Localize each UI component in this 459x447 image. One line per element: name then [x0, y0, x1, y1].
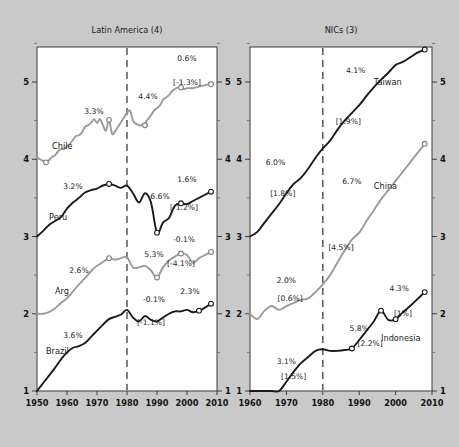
- xtick-label-latin-america-4: 1990: [146, 398, 169, 408]
- xtick-label-nics-2: 1980: [311, 398, 334, 408]
- annotation-china-2: 6.7%: [342, 177, 361, 186]
- xtick-label-nics-0: 1960: [239, 398, 262, 408]
- series-label-indonesia: Indonesia: [381, 333, 421, 343]
- annotation-indonesia-4: 4.3%: [390, 284, 409, 293]
- ytick-label-left-nics-4: 5: [236, 77, 242, 87]
- ytick-label-left-nics-3: 4: [236, 154, 242, 164]
- ytick-label-right-latin-america-3: 4: [225, 154, 231, 164]
- ytick-label-right-latin-america-2: 3: [225, 232, 231, 242]
- series-marker-peru-3: [209, 189, 214, 194]
- xtick-label-nics-3: 1990: [348, 398, 371, 408]
- annotation-taiwan-1: [1.9%]: [336, 117, 361, 126]
- series-marker-chile-4: [209, 82, 214, 87]
- ytick-label-left-latin-america-2: 3: [23, 232, 29, 242]
- annotation-china-3: [4.5%]: [328, 243, 353, 252]
- annotation-brazil-3: [-1.1%]: [137, 318, 165, 327]
- ytick-label-left-latin-america-4: 5: [23, 77, 29, 87]
- series-marker-chile-2: [143, 123, 148, 128]
- annotation-china-0: 6.0%: [266, 158, 285, 167]
- ytick-label-right-latin-america-1: 2: [225, 309, 231, 319]
- series-label-china: China: [374, 181, 397, 191]
- xtick-label-nics-4: 2000: [384, 398, 407, 408]
- series-label-taiwan: Taiwan: [373, 77, 402, 87]
- series-marker-peru-1: [155, 230, 160, 235]
- series-marker-chile-1: [107, 117, 112, 122]
- ytick-label-right-nics-4: 5: [440, 77, 446, 87]
- annotation-brazil-0: 3.6%: [63, 331, 82, 340]
- series-marker-brazil-0: [197, 308, 202, 313]
- panel-latin-america: Latin America (4)19501960197019801990200…: [23, 25, 231, 408]
- xtick-label-nics-5: 2010: [421, 398, 444, 408]
- ytick-label-right-nics-0: 1: [440, 386, 446, 396]
- annotation-indonesia-2: 5.8%: [350, 324, 369, 333]
- series-marker-indonesia-3: [422, 290, 427, 295]
- series-marker-arg-0: [107, 256, 112, 261]
- annotation-chile-2: 0.6%: [177, 54, 196, 63]
- ytick-label-left-nics-1: 2: [236, 309, 242, 319]
- series-marker-arg-3: [209, 250, 214, 255]
- ytick-label-right-nics-1: 2: [440, 309, 446, 319]
- annotation-arg-0: 2.6%: [69, 266, 88, 275]
- series-marker-indonesia-0: [350, 346, 355, 351]
- annotation-indonesia-5: [1%]: [394, 309, 412, 318]
- annotation-chile-3: [-1.3%]: [173, 78, 201, 87]
- ytick-label-right-latin-america-0: 1: [225, 386, 231, 396]
- chart-canvas: Latin America (4)19501960197019801990200…: [0, 0, 459, 447]
- series-marker-arg-2: [179, 251, 184, 256]
- xtick-label-latin-america-0: 1950: [26, 398, 49, 408]
- annotation-peru-2: 1.6%: [177, 175, 196, 184]
- xtick-label-latin-america-3: 1980: [116, 398, 139, 408]
- annotation-peru-0: 3.2%: [63, 182, 82, 191]
- panel-title-latin-america: Latin America (4): [92, 25, 163, 35]
- xtick-label-latin-america-1: 1960: [56, 398, 79, 408]
- annotation-taiwan-0: 4.1%: [346, 66, 365, 75]
- chart-figure: Latin America (4)19501960197019801990200…: [0, 0, 459, 447]
- annotation-peru-1: 6.6%: [150, 192, 169, 201]
- annotation-indonesia-3: [2.2%]: [358, 339, 383, 348]
- ytick-label-left-latin-america-1: 2: [23, 309, 29, 319]
- series-label-brazil: Brazil: [46, 346, 69, 356]
- series-marker-chile-0: [44, 160, 49, 165]
- series-label-peru: Peru: [49, 212, 67, 222]
- panel-nics: NICs (3)19601970198019902000201011223344…: [236, 25, 446, 408]
- annotation-china-4: 2.0%: [277, 276, 296, 285]
- series-marker-taiwan-0: [422, 47, 427, 52]
- series-marker-china-0: [422, 141, 427, 146]
- annotation-china-1: [1.8%]: [270, 189, 295, 198]
- series-label-arg: Arg: [55, 286, 69, 296]
- annotation-chile-1: 4.4%: [138, 92, 157, 101]
- ytick-label-left-nics-2: 3: [236, 232, 242, 242]
- annotation-arg-1: 5.3%: [144, 250, 163, 259]
- annotation-chile-0: 3.3%: [84, 107, 103, 116]
- annotation-arg-3: [-4.1%]: [167, 259, 195, 268]
- series-marker-arg-1: [155, 275, 160, 280]
- annotation-indonesia-1: [1.5%]: [281, 372, 306, 381]
- annotation-brazil-2: 2.3%: [180, 287, 199, 296]
- series-marker-peru-0: [107, 182, 112, 187]
- series-label-chile: Chile: [52, 141, 73, 151]
- xtick-label-latin-america-5: 2000: [176, 398, 199, 408]
- ytick-label-left-latin-america-0: 1: [23, 386, 29, 396]
- annotation-brazil-1: -0.1%: [143, 295, 165, 304]
- series-marker-brazil-1: [209, 301, 214, 306]
- ytick-label-right-latin-america-4: 5: [225, 77, 231, 87]
- annotation-arg-2: -0.1%: [173, 235, 195, 244]
- series-marker-indonesia-1: [379, 308, 384, 313]
- annotation-peru-3: [-1.2%]: [170, 203, 198, 212]
- panel-title-nics: NICs (3): [325, 25, 358, 35]
- ytick-label-left-nics-0: 1: [236, 386, 242, 396]
- xtick-label-nics-1: 1970: [275, 398, 298, 408]
- xtick-label-latin-america-2: 1970: [86, 398, 109, 408]
- ytick-label-left-latin-america-3: 4: [23, 154, 29, 164]
- annotation-china-5: [0.6%]: [277, 294, 302, 303]
- ytick-label-right-nics-2: 3: [440, 232, 446, 242]
- xtick-label-latin-america-6: 2010: [206, 398, 229, 408]
- annotation-indonesia-0: 3.1%: [277, 357, 296, 366]
- ytick-label-right-nics-3: 4: [440, 154, 446, 164]
